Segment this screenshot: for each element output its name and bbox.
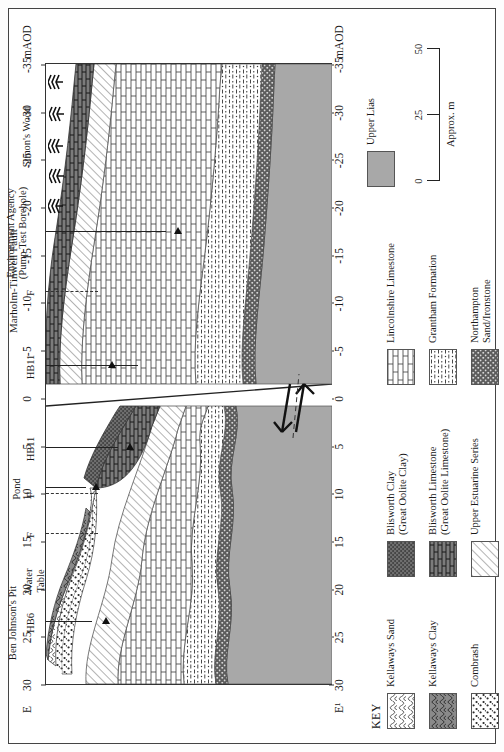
axis-tick-bot-5: 5 [333,444,345,450]
borehole-label-hb11-b: HB11 [25,337,37,397]
axis-tick-top-30: 30 [21,679,33,691]
axis-end-label-right: E¹ [333,703,345,713]
key-legend-panel: KEY Kellaways SandKellaways ClayCombrash… [361,9,493,743]
tree-icon [48,138,63,154]
axis-tick-top--35: -35 [21,57,33,73]
water-level-marker [108,361,116,368]
key-label: Northampton Sand/Ironstone [469,279,493,343]
axis-tick-bot--5: -5 [333,346,345,356]
tree-icon [49,106,64,122]
axis-tick-bot--35: -35 [333,57,345,73]
scale-bar: 0 25 50 Approx. m [419,37,471,187]
axis-tick-bot-0: 0 [333,396,345,402]
key-label: Upper Lias [365,98,377,145]
axis-tick-bot--10: -10 [333,296,345,312]
key-swatch [387,693,415,729]
fault-dashed-line [46,533,98,534]
tree-icon [48,74,63,90]
cross-section-panel: E E¹ 302520151050-5-10-15-20-25-30-35 30… [9,9,339,743]
axis-tick-bot-20: 20 [333,584,345,596]
fault-tick-label-3: F [25,283,37,303]
water-level-marker [126,443,134,450]
axis-tick-bot--20: -20 [333,200,345,216]
water-level-marker [174,227,182,234]
key-swatch [387,541,415,577]
fault-dashed-line [46,291,98,292]
key-swatch [471,349,499,385]
key-swatch [429,693,457,729]
tree-icon [48,198,63,214]
axis-end-label-left: E [21,706,33,713]
key-label: Upper Estuarine Series [469,438,481,535]
key-label: Combrash [469,644,481,687]
fault-dashed-line [46,493,98,494]
axis-unit-top: mAOD [21,25,33,59]
scale-tick-50: 50 [413,44,424,55]
key-label: Lincolnshire Limestone [385,243,397,343]
key-title: KEY [369,703,384,729]
key-swatch [429,349,457,385]
borehole-label-hb11-a: HB11 [25,419,37,479]
borehole-line [46,231,166,232]
borehole-line [46,447,118,448]
water-table-label: Water Table [23,551,47,611]
key-label: Blisworth Limestone (Great Oolite Limest… [427,429,451,535]
axis-tick-bot--15: -15 [333,248,345,264]
water-level-marker [102,617,110,624]
rotated-figure-container: E E¹ 302520151050-5-10-15-20-25-30-35 30… [9,9,495,743]
key-swatch [367,151,395,187]
site-label-simons-wood: Simon's Wood [21,92,33,182]
axis-tick-bot-30: 30 [333,679,345,691]
axis-tick-bot--30: -30 [333,105,345,121]
key-swatch [387,349,415,385]
section-plot-area [45,63,332,685]
fault-throw-arrows [46,64,332,684]
scale-caption: Approx. m [445,102,456,148]
key-swatch [471,693,499,729]
key-swatch [429,541,457,577]
fault-tick-label-2: F [25,485,37,505]
fault-tick-label-1: F [25,525,37,545]
axis-tick-bot-25: 25 [333,631,345,643]
axis-tick-bot--25: -25 [333,152,345,168]
axis-ticks-bottom: 302520151050-5-10-15-20-25-30-35 [333,65,355,685]
figure-page: E E¹ 302520151050-5-10-15-20-25-30-35 30… [0,0,504,752]
site-label-ben-johnsons-pit: Ben Johnson's Pit [7,563,19,683]
borehole-line [46,365,138,366]
borehole-label-environment-agency: Environment Agency (Pump Test Borehole) [5,163,29,303]
scale-tick-0: 0 [413,178,424,183]
borehole-line [46,487,86,488]
tree-icon [49,168,64,184]
key-label: Kellaways Sand [385,619,397,687]
pond-label: Pond [11,466,23,512]
water-level-marker [92,483,100,490]
figure-frame: E E¹ 302520151050-5-10-15-20-25-30-35 30… [8,8,496,744]
borehole-line [46,621,92,622]
key-swatch [471,541,499,577]
scale-tick-25: 25 [413,110,424,121]
axis-unit-bottom: mAOD [333,25,345,59]
axis-tick-bot-10: 10 [333,488,345,500]
axis-tick-bot-15: 15 [333,536,345,548]
key-label: Kellaways Clay [427,620,439,687]
key-label: Blisworth Clay (Great Oolite Clay) [385,453,409,535]
key-label: Grantham Formation [427,255,439,343]
